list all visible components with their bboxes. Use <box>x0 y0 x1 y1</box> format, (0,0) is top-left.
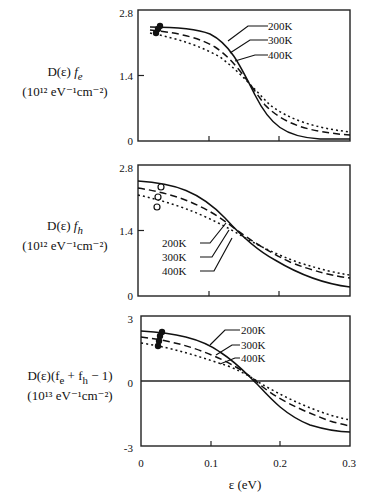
legend-leaders <box>200 26 268 364</box>
panel-1-curves <box>150 27 350 139</box>
legend-300k-p3: 300K <box>241 339 266 351</box>
legend-300k-p2: 300K <box>162 251 187 263</box>
legend-200k-p2: 200K <box>162 237 187 249</box>
panel-1-markers <box>153 23 163 36</box>
p1-ylabel-units: (10¹² eV⁻¹cm⁻²) <box>0 84 130 100</box>
p3-ylabel-a: D(ε)(f <box>27 368 59 383</box>
p2-ylabel-pre: D(ε) <box>47 218 71 233</box>
xtick-2: 0.2 <box>273 457 287 469</box>
p2-ylabel: D(ε) fh (10¹² eV⁻¹cm⁻²) <box>0 218 130 254</box>
legend-300k-p1: 300K <box>268 34 293 46</box>
p3-ytick-top: 3 <box>128 313 134 325</box>
p1-ylabel-pre: D(ε) <box>47 64 71 79</box>
legend-200k-p1: 200K <box>268 20 293 32</box>
curve-200k <box>150 27 350 139</box>
p1-ylabel-sub: e <box>78 70 83 82</box>
legend-200k-p3: 200K <box>241 324 266 336</box>
legend-400k-p1: 400K <box>268 49 293 61</box>
p1-ytick-bot: 0 <box>128 135 134 147</box>
p3-ylabel-b: + f <box>64 368 82 383</box>
p1-ytick-top: 2.8 <box>119 7 133 19</box>
curve-400k <box>150 33 350 132</box>
p3-ytick-bot: -3 <box>124 442 134 454</box>
p3-ylabel-units: (10¹³ eV⁻¹cm⁻²) <box>0 388 140 404</box>
legend-400k-p3: 400K <box>241 352 266 364</box>
p3-ylabel-c: − 1) <box>88 368 113 383</box>
legend-400k-p2: 400K <box>162 265 187 277</box>
curve-300k <box>150 30 350 135</box>
p3-ylabel: D(ε)(fe + fh − 1) (10¹³ eV⁻¹cm⁻²) <box>0 368 140 404</box>
p1-ylabel: D(ε) fe (10¹² eV⁻¹cm⁻²) <box>0 64 130 100</box>
xtick-0: 0 <box>138 457 144 469</box>
p2-ytick-bot: 0 <box>128 290 134 302</box>
p2-ylabel-units: (10¹² eV⁻¹cm⁻²) <box>0 238 130 254</box>
panel-2-markers <box>154 184 164 210</box>
xtick-1: 0.1 <box>204 457 218 469</box>
curve-400k <box>138 195 350 275</box>
p2-ylabel-sub: h <box>77 224 82 236</box>
xtick-3: 0.3 <box>342 457 356 469</box>
x-axis-label: ε (eV) <box>229 477 262 492</box>
p2-ytick-top: 2.8 <box>119 162 133 174</box>
